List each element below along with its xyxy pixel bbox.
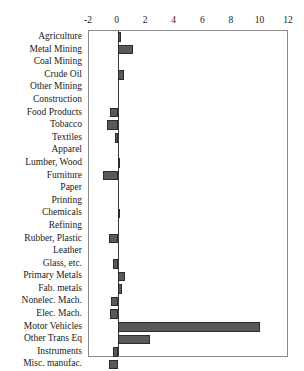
x-tick-label-6: 10 bbox=[255, 14, 265, 26]
x-tick-label-0: -2 bbox=[84, 14, 92, 26]
category-label-0: Agriculture bbox=[0, 30, 85, 43]
bar-16 bbox=[109, 234, 118, 244]
bar-22 bbox=[110, 309, 118, 319]
bar-row bbox=[89, 245, 287, 258]
bar-row bbox=[89, 132, 287, 145]
category-label-20: Fab. metals bbox=[0, 282, 85, 295]
bar-6 bbox=[110, 108, 118, 118]
bar-row bbox=[89, 144, 287, 157]
bar-3 bbox=[118, 70, 124, 80]
category-label-8: Textiles bbox=[0, 131, 85, 144]
bar-18 bbox=[113, 259, 118, 269]
category-label-5: Construction bbox=[0, 93, 85, 106]
category-label-21: Nonelec. Mach. bbox=[0, 294, 85, 307]
bar-20 bbox=[118, 284, 122, 294]
bar-row bbox=[89, 107, 287, 120]
category-label-22: Elec. Mach. bbox=[0, 307, 85, 320]
category-label-2: Coal Mining bbox=[0, 55, 85, 68]
bar-row bbox=[89, 270, 287, 283]
category-label-10: Lumber, Wood bbox=[0, 156, 85, 169]
category-label-11: Furniture bbox=[0, 169, 85, 182]
bar-1 bbox=[118, 45, 133, 55]
bar-14 bbox=[118, 209, 120, 219]
category-label-9: Apparel bbox=[0, 143, 85, 156]
bar-row bbox=[89, 81, 287, 94]
category-label-19: Primary Metals bbox=[0, 269, 85, 282]
bar-row bbox=[89, 94, 287, 107]
x-tick-label-7: 12 bbox=[283, 14, 293, 26]
category-label-13: Printing bbox=[0, 194, 85, 207]
category-axis-labels: AgricultureMetal MiningCoal MiningCrude … bbox=[0, 30, 85, 370]
category-label-7: Tobacco bbox=[0, 118, 85, 131]
category-label-3: Crude Oil bbox=[0, 68, 85, 81]
bar-row bbox=[89, 233, 287, 246]
bar-row bbox=[89, 346, 287, 359]
category-label-12: Paper bbox=[0, 181, 85, 194]
x-tick-label-1: 0 bbox=[114, 14, 119, 26]
bar-21 bbox=[111, 297, 117, 307]
category-label-1: Metal Mining bbox=[0, 43, 85, 56]
bar-row bbox=[89, 358, 287, 371]
bar-row bbox=[89, 44, 287, 57]
bar-row bbox=[89, 283, 287, 296]
bar-row bbox=[89, 119, 287, 132]
bar-row bbox=[89, 207, 287, 220]
category-label-17: Leather bbox=[0, 244, 85, 257]
bar-row bbox=[89, 170, 287, 183]
category-label-25: Instruments bbox=[0, 345, 85, 358]
bar-row bbox=[89, 220, 287, 233]
bar-23 bbox=[118, 322, 261, 332]
bar-11 bbox=[103, 171, 118, 181]
bar-25 bbox=[113, 347, 117, 357]
x-tick-label-3: 4 bbox=[171, 14, 176, 26]
category-label-14: Chemicals bbox=[0, 206, 85, 219]
bar-24 bbox=[118, 335, 151, 345]
x-axis-tick-labels: -2024681012 bbox=[88, 14, 288, 28]
bar-row bbox=[89, 31, 287, 44]
bar-0 bbox=[118, 32, 122, 42]
category-label-26: Misc. manufac. bbox=[0, 357, 85, 370]
bar-26 bbox=[109, 360, 118, 370]
bar-row bbox=[89, 333, 287, 346]
category-label-4: Other Mining bbox=[0, 80, 85, 93]
x-tick-label-4: 6 bbox=[200, 14, 205, 26]
bar-row bbox=[89, 69, 287, 82]
category-label-24: Other Trans Eq bbox=[0, 332, 85, 345]
x-tick-label-5: 8 bbox=[228, 14, 233, 26]
category-label-23: Motor Vehicles bbox=[0, 320, 85, 333]
bar-10 bbox=[118, 158, 121, 168]
bar-8 bbox=[115, 133, 118, 143]
bar-row bbox=[89, 308, 287, 321]
x-tick-label-2: 2 bbox=[143, 14, 148, 26]
bar-row bbox=[89, 182, 287, 195]
bar-7 bbox=[107, 120, 118, 130]
bar-row bbox=[89, 157, 287, 170]
bar-row bbox=[89, 295, 287, 308]
bar-19 bbox=[118, 272, 126, 282]
bar-row bbox=[89, 195, 287, 208]
bar-row bbox=[89, 321, 287, 334]
bars-container bbox=[89, 31, 287, 356]
category-label-16: Rubber, Plastic bbox=[0, 232, 85, 245]
plot-area bbox=[88, 30, 288, 357]
category-label-18: Glass, etc. bbox=[0, 257, 85, 270]
bar-row bbox=[89, 258, 287, 271]
bar-row bbox=[89, 56, 287, 69]
category-label-15: Refining bbox=[0, 219, 85, 232]
category-label-6: Food Products bbox=[0, 106, 85, 119]
